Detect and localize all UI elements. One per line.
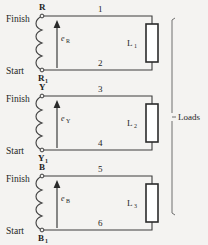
bottom-wire-b [42,222,152,230]
side-label-finish-y: Finish [6,94,30,104]
loads-label: Loads [178,112,200,122]
side-label-finish-b: Finish [6,174,30,184]
coil-winding-y [36,96,42,150]
side-label-start-y: Start [6,146,24,156]
terminal-finish-b [40,174,44,178]
wire-number-6: 6 [98,218,103,228]
wire-number-3: 3 [98,84,103,94]
emf-label-b: e [61,194,65,203]
bottom-wire-r [42,62,152,70]
load-box-l2 [146,104,158,142]
phase-circuit-r: Finish Start R R 1 e R 1 2 L 1 [6,2,158,84]
terminal-finish-r [40,14,44,18]
terminal-label-start-b: B [38,233,44,243]
side-label-start-r: Start [6,66,24,76]
terminal-label-finish-y: Y [39,82,46,92]
terminal-start-y [40,148,44,152]
phase-circuit-b: Finish Start B B 1 e B 5 6 L 3 [6,162,158,244]
emf-label-r-sub: R [66,38,70,44]
emf-label-y: e [61,114,65,123]
load-label-l3-sub: 3 [134,203,137,209]
top-wire-b [42,176,152,184]
load-label-l2-sub: 2 [134,123,137,129]
load-box-l3 [146,184,158,222]
top-wire-y [42,96,152,104]
wire-number-5: 5 [98,164,103,174]
terminal-finish-y [40,94,44,98]
coil-winding-r [36,16,42,70]
emf-arrowhead-r [54,20,61,28]
side-label-start-b: Start [6,226,24,236]
terminal-label-start-y-sub: 1 [45,158,48,164]
load-label-l2: L [127,118,133,128]
wire-number-1: 1 [98,4,103,14]
phase-circuit-y: Finish Start Y Y 1 e Y 3 4 L 2 [6,82,158,164]
emf-label-y-sub: Y [66,118,71,124]
coil-winding-b [36,176,42,230]
side-label-finish-r: Finish [6,14,30,24]
terminal-label-finish-b: B [39,162,45,172]
load-label-l1: L [127,38,133,48]
loads-bracket-group: Loads [172,18,200,215]
load-box-l1 [146,24,158,62]
emf-label-b-sub: B [66,198,70,204]
terminal-label-start-b-sub: 1 [45,238,48,244]
emf-label-r: e [61,34,65,43]
wire-number-2: 2 [98,58,103,68]
bottom-wire-y [42,142,152,150]
three-phase-winding-diagram: Finish Start R R 1 e R 1 2 L 1 Finish St… [0,0,208,245]
load-label-l1-sub: 1 [134,43,137,49]
wire-number-4: 4 [98,138,103,148]
emf-arrowhead-y [54,100,61,108]
top-wire-r [42,16,152,24]
terminal-start-b [40,228,44,232]
load-label-l3: L [127,198,133,208]
terminal-label-finish-r: R [39,2,46,12]
emf-arrowhead-b [54,180,61,188]
terminal-start-r [40,68,44,72]
